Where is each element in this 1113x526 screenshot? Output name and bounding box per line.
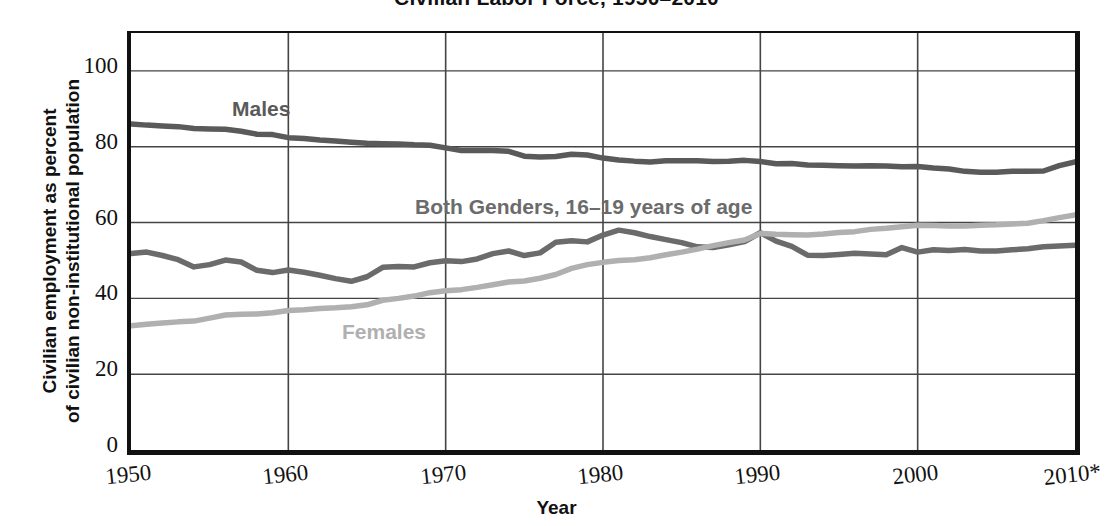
y-axis-tick-labels: 020406080100 xyxy=(50,0,118,526)
x-tick-label: 1990 xyxy=(697,456,819,494)
y-tick-label: 20 xyxy=(60,356,118,382)
x-tick-label: 1970 xyxy=(382,456,504,494)
series-label-females: Females xyxy=(342,320,426,344)
x-tick-label: 1960 xyxy=(225,456,347,494)
y-tick-label: 0 xyxy=(60,432,118,458)
y-tick-label: 100 xyxy=(60,53,118,79)
x-tick-label: 1980 xyxy=(539,456,661,494)
plot-svg xyxy=(131,33,1075,450)
x-tick-label: 2010* xyxy=(1011,456,1113,494)
x-tick-label: 1950 xyxy=(67,456,189,494)
y-tick-label: 60 xyxy=(60,205,118,231)
y-tick-label: 80 xyxy=(60,129,118,155)
chart-container: Civilian Labor Force, 1950–2010 Civilian… xyxy=(0,0,1113,526)
series-label-males: Males xyxy=(232,97,290,121)
series-label-both-genders: Both Genders, 16–19 years of age xyxy=(415,195,752,219)
y-tick-label: 40 xyxy=(60,280,118,306)
x-axis-title: Year xyxy=(0,497,1113,519)
plot-area xyxy=(127,31,1080,455)
chart-title: Civilian Labor Force, 1950–2010 xyxy=(0,0,1113,10)
x-tick-label: 2000 xyxy=(854,456,976,494)
